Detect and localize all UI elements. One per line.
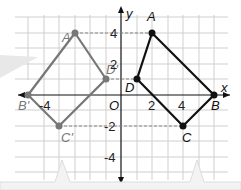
y-tick-4: 4 xyxy=(110,26,117,41)
label-D: D xyxy=(125,80,134,95)
label-A: A xyxy=(146,9,156,24)
y-axis-label: y xyxy=(125,6,134,21)
y-tick-neg4: -4 xyxy=(104,150,116,165)
x-tick-neg4: -4 xyxy=(39,98,51,113)
axes xyxy=(18,8,230,182)
x-axis-label: x xyxy=(220,80,228,95)
label-B: B xyxy=(211,98,220,113)
coordinate-plane: A B C D A' B' C' D' y x O -4 2 4 4 2 -2 … xyxy=(0,0,241,190)
x-tick-2: 2 xyxy=(148,98,155,113)
label-A-prime: A' xyxy=(61,30,74,45)
label-B-prime: B' xyxy=(18,98,30,113)
x-tick-4: 4 xyxy=(178,98,185,113)
y-tick-neg2: -2 xyxy=(104,119,116,134)
origin-label: O xyxy=(109,98,119,113)
callout-pointer xyxy=(0,55,38,78)
label-C-prime: C' xyxy=(61,130,73,145)
label-C: C xyxy=(182,130,192,145)
y-tick-2: 2 xyxy=(110,57,117,72)
